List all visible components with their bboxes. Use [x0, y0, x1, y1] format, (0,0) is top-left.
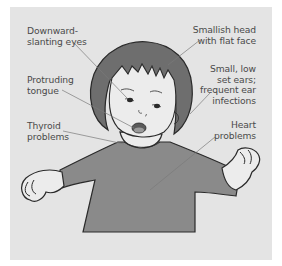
label-downward-slanting-eyes: Downward- slanting eyes: [27, 26, 87, 47]
label-small-low-set-ears: Small, low set ears; frequent ear infect…: [200, 64, 256, 106]
shirt-shape: [60, 142, 240, 232]
label-protruding-tongue: Protruding tongue: [27, 75, 74, 96]
label-thyroid-problems: Thyroid problems: [27, 121, 69, 142]
label-heart-problems: Heart problems: [214, 120, 256, 141]
right-hand: [222, 148, 260, 190]
leader-thyroid: [63, 131, 124, 144]
tongue-shape: [134, 128, 144, 133]
left-hand: [22, 170, 64, 201]
label-smallish-head: Smallish head with flat face: [193, 25, 256, 46]
